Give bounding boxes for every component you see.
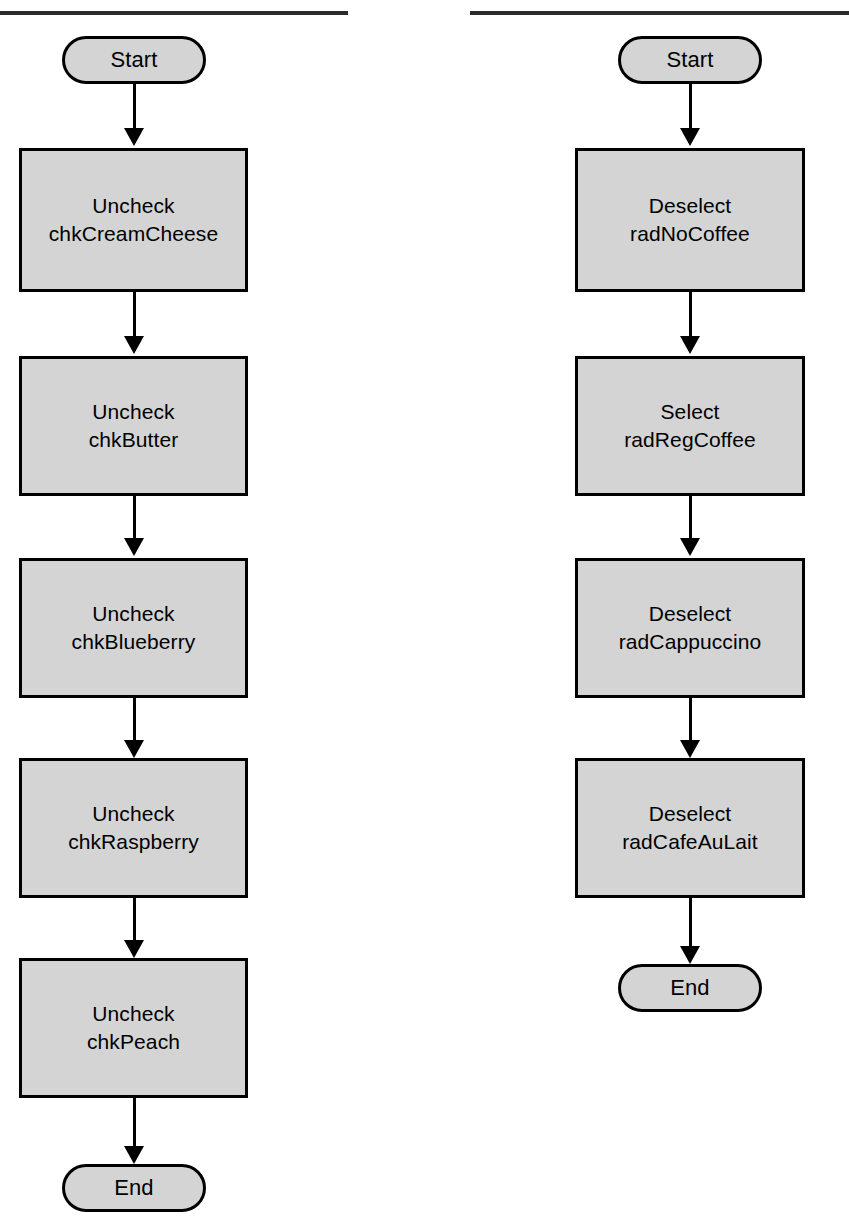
arrowhead-step-3-to-step-4 (680, 740, 700, 758)
process-node-4-target: radCafeAuLait (622, 828, 758, 856)
process-node-2: Select radRegCoffee (575, 356, 805, 496)
end-node: End (62, 1164, 206, 1212)
process-node-1-action: Deselect (649, 194, 732, 217)
start-node: Start (618, 36, 762, 84)
arrowhead-start-to-step-1 (680, 128, 700, 146)
connector-step-2-to-step-3 (133, 496, 136, 540)
connector-step-2-to-step-3 (689, 496, 692, 540)
connector-step-1-to-step-2 (133, 292, 136, 338)
process-node-2-target: chkButter (89, 426, 179, 454)
arrowhead-step-4-to-end (680, 946, 700, 964)
process-node-2: Uncheck chkButter (19, 356, 248, 496)
arrowhead-step-3-to-step-4 (124, 740, 144, 758)
process-node-3-action: Uncheck (92, 602, 174, 625)
process-node-3: Deselect radCappuccino (575, 558, 805, 698)
connector-step-3-to-step-4 (689, 698, 692, 742)
flowchart-radio-reset-flow: Start Deselect radNoCoffee Select radReg… (425, 0, 849, 1232)
process-node-3: Uncheck chkBlueberry (19, 558, 248, 698)
start-node: Start (62, 36, 206, 84)
arrowhead-start-to-step-1 (124, 128, 144, 146)
process-node-4: Uncheck chkRaspberry (19, 758, 248, 898)
connector-start-to-step-1 (689, 84, 692, 130)
arrowhead-step-1-to-step-2 (124, 336, 144, 354)
process-node-1: Uncheck chkCreamCheese (19, 148, 248, 292)
process-node-5-target: chkPeach (87, 1028, 180, 1056)
process-node-1: Deselect radNoCoffee (575, 148, 805, 292)
arrowhead-step-2-to-step-3 (680, 538, 700, 556)
arrowhead-step-4-to-step-5 (124, 940, 144, 958)
connector-step-3-to-step-4 (133, 698, 136, 742)
process-node-2-target: radRegCoffee (624, 426, 756, 454)
process-node-1-action: Uncheck (92, 194, 174, 217)
connector-step-5-to-end (133, 1098, 136, 1148)
process-node-4-action: Deselect (649, 802, 732, 825)
connector-start-to-step-1 (133, 84, 136, 130)
start-node-label: Start (667, 45, 714, 74)
connector-step-1-to-step-2 (689, 292, 692, 338)
connector-step-4-to-end (689, 898, 692, 948)
arrowhead-step-1-to-step-2 (680, 336, 700, 354)
process-node-4: Deselect radCafeAuLait (575, 758, 805, 898)
process-node-4-target: chkRaspberry (68, 828, 199, 856)
process-node-3-target: radCappuccino (619, 628, 762, 656)
process-node-5-action: Uncheck (92, 1002, 174, 1025)
process-node-4-action: Uncheck (92, 802, 174, 825)
end-node-label: End (114, 1173, 153, 1202)
process-node-5: Uncheck chkPeach (19, 958, 248, 1098)
process-node-1-target: chkCreamCheese (49, 220, 218, 248)
flowchart-page: Start Uncheck chkCreamCheese Uncheck chk… (0, 0, 849, 1232)
process-node-3-action: Deselect (649, 602, 732, 625)
process-node-1-target: radNoCoffee (630, 220, 750, 248)
arrowhead-step-2-to-step-3 (124, 538, 144, 556)
process-node-2-action: Uncheck (92, 400, 174, 423)
start-node-label: Start (111, 45, 158, 74)
end-node: End (618, 964, 762, 1012)
end-node-label: End (670, 973, 709, 1002)
arrowhead-step-5-to-end (124, 1146, 144, 1164)
process-node-2-action: Select (661, 400, 720, 423)
process-node-3-target: chkBlueberry (72, 628, 196, 656)
flowchart-checkbox-reset-flow: Start Uncheck chkCreamCheese Uncheck chk… (0, 0, 424, 1232)
connector-step-4-to-step-5 (133, 898, 136, 942)
